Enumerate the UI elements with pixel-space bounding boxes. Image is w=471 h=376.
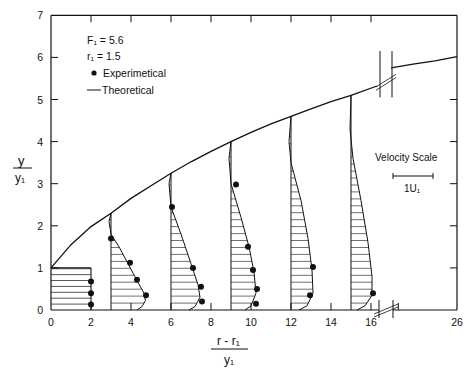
param-f1: F₁ = 5.6 [87,34,124,46]
velocity-scale: Velocity Scale 1U₁ [375,152,438,194]
legend-experimental-label: Experimetical [103,67,166,79]
y-tick-label: 3 [37,178,43,190]
y-tick-label: 0 [37,304,43,316]
profile-15-theoretical-curve [350,95,372,310]
profile-hatching [51,102,372,305]
y-tick-label: 4 [37,136,43,148]
x-tick-label: 8 [208,316,214,328]
x-tick-label: 12 [285,316,297,328]
parameter-block: F₁ = 5.6 r₁ = 1.5 [87,34,124,62]
x-tick-label: 16 [365,316,377,328]
experimental-point [199,299,205,305]
legend-dot-marker [91,70,96,75]
x-tick-label: 14 [325,316,337,328]
velocity-scale-label: 1U₁ [404,183,421,194]
velocity-profile-chart: 02468101214162601234567 F₁ = 5.6 r₁ = 1.… [0,0,471,376]
experimental-point [190,265,196,271]
x-tick-label: 4 [128,316,134,328]
y-axis-label-denominator: y₁ [15,171,25,185]
experimental-point [127,260,133,266]
experimental-point [88,278,94,284]
experimental-point [169,204,175,210]
profile-9-theoretical-curve [229,142,256,310]
legend-theoretical-label: Theoretical [102,84,154,96]
axis-break-slash [374,307,398,317]
x-tick-label: 0 [48,316,54,328]
boundary-segment-before-break [51,86,377,268]
x-tick-label: 26 [451,316,463,328]
x-axis-label-numerator: r - r₁ [217,334,240,348]
experimental-point [250,267,256,273]
x-tick-label: 10 [245,316,257,328]
experimental-point [253,301,259,307]
legend: Experimetical Theoretical [87,67,166,96]
boundary-break-slash [376,74,396,87]
velocity-scale-title: Velocity Scale [375,152,438,163]
y-tick-label: 7 [37,9,43,21]
theoretical-profiles [51,95,372,310]
experimental-point [307,292,313,298]
y-tick-label: 1 [37,262,43,274]
experimental-point [198,284,204,290]
experimental-point [88,290,94,296]
boundary-break-slash [376,78,396,91]
y-tick-label: 2 [37,220,43,232]
y-axis-label: y y₁ [13,153,32,185]
boundary-segment-after-break [391,57,457,68]
axis-break-slash [374,304,398,314]
y-tick-label: 5 [37,94,43,106]
y-tick-label: 6 [37,51,43,63]
experimental-point [134,277,140,283]
experimental-point [143,292,149,298]
experimental-point [88,302,94,308]
experimental-point [233,182,239,188]
experimental-point [108,235,114,241]
y-axis-label-numerator: y [18,153,25,168]
x-tick-label: 2 [88,316,94,328]
experimental-point [254,286,260,292]
experimental-points [88,182,376,308]
x-axis-label-denominator: y₁ [224,353,234,367]
x-tick-label: 6 [168,316,174,328]
experimental-point [310,264,316,270]
profile-12-theoretical-curve [289,116,313,310]
param-r1: r₁ = 1.5 [87,50,121,62]
x-axis-label: r - r₁ y₁ [211,334,248,367]
experimental-point [370,290,376,296]
experimental-point [245,244,251,250]
